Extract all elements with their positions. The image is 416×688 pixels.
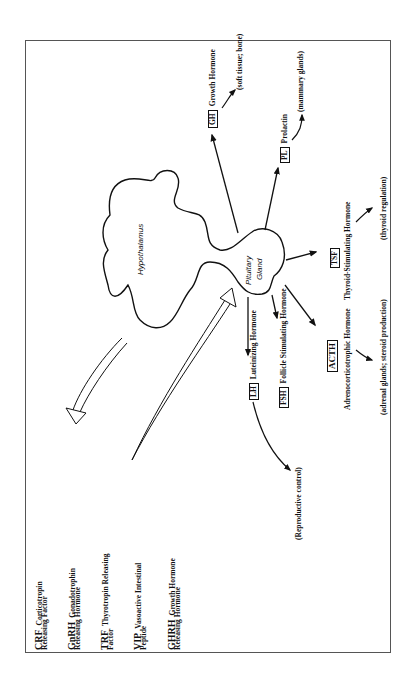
gh-box: GH [208,110,218,128]
pl-name: Prolactin [280,114,289,143]
legend-item-vip-line2: Peptide [140,626,148,650]
tsf-box: TSF [330,248,340,268]
hormone-gh: GH Growth Hormone [202,49,218,128]
tsf-target: (thyroid regulation) [380,177,388,240]
hormone-pl: PL Prolactin [274,114,290,163]
pl-box: PL [280,147,290,163]
hypothalamus-outline [103,171,284,328]
hollow-arrow-to-pituitary [132,300,230,460]
hormone-fsh: FSH Follicle Stimulating Hormone [273,288,289,408]
legend-item-crf-line2: Releasing Factor [41,596,49,650]
hollow-arrow-to-legend [73,338,127,412]
tsf-name: Thyroid-Stimulating Hormone [344,202,352,300]
lh-box: LH [249,383,259,400]
fsh-box: FSH [279,387,289,408]
legend-item-gnrh-line2: Releasing Hormone [74,587,82,650]
hormone-lh: LH Luteinizing Hormone [243,310,259,400]
gh-name: Growth Hormone [208,49,217,106]
fsh-name: Follicle Stimulating Hormone [279,288,288,383]
hormone-tsf-box-wrap: TSF [324,248,340,268]
acth-name: Adrenocorticotrophic Hormone [344,308,352,410]
lh-target: (Reproductive control) [295,467,303,540]
hypothalamus-label: Hypothalamus [137,224,145,275]
gh-target: (soft tissue; bone) [236,34,244,90]
acth-box: ACTH [327,340,338,372]
pituitary-label-line2: Gland [256,259,264,280]
legend-item-trf-line2: Factor [107,629,115,650]
lh-name: Luteinizing Hormone [249,310,258,379]
pl-target: (mammary glands) [297,51,305,112]
hormone-acth-box-wrap: ACTH [322,340,338,372]
legend-item-ghrh-line2: Releasing Hormone [174,587,182,650]
acth-target: (adrenal glands; steroid production) [380,299,388,415]
hollow-arrow-head-legend [66,408,86,424]
pituitary-label-line1: Pituitary [245,256,253,285]
